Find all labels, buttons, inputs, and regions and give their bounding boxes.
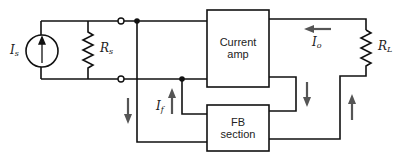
source-resistor xyxy=(83,21,93,79)
arrow-left-icon xyxy=(304,25,314,33)
load-resistor-label: RL xyxy=(378,40,392,54)
current-amp-label: Current amp xyxy=(207,36,269,60)
source-resistor-label: Rs xyxy=(100,42,113,56)
arrow-down-icon xyxy=(303,97,311,107)
output-current-label: Io xyxy=(312,36,322,50)
amp-fb-link-wire xyxy=(269,77,296,111)
arrow-down-icon xyxy=(124,114,132,124)
junction-dot xyxy=(179,76,185,82)
source-current-label: Is xyxy=(10,44,19,58)
input-terminal-top xyxy=(118,18,124,24)
feedback-current-label: If xyxy=(156,100,164,114)
junction-dot xyxy=(134,18,140,24)
circuit-diagram xyxy=(0,0,400,161)
feedback-input-wire xyxy=(182,79,207,114)
arrow-up-icon xyxy=(168,88,176,98)
fb-section-label: FB section xyxy=(207,116,269,140)
left-vertical-wire xyxy=(137,21,207,142)
input-terminal-bottom xyxy=(118,76,124,82)
arrow-up-icon xyxy=(348,94,356,104)
